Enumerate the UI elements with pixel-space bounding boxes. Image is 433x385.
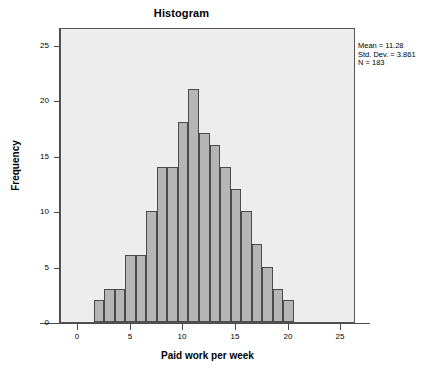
bars-layer	[61, 29, 354, 322]
histogram-bar	[273, 289, 284, 322]
plot-area	[60, 28, 355, 323]
histogram-bar	[125, 255, 136, 322]
chart-title: Histogram	[0, 7, 363, 19]
y-axis-line	[59, 28, 60, 324]
histogram-bar	[146, 211, 157, 322]
histogram-bar	[241, 211, 252, 322]
histogram-bar	[283, 300, 294, 322]
histogram-bar	[231, 189, 242, 322]
x-axis-tick-label: 15	[225, 332, 245, 341]
y-axis-tick-label: 10	[40, 208, 49, 216]
statistics-annotation: Mean = 11.28 Std. Dev. = 3.861 N = 183	[358, 42, 416, 68]
x-axis-title: Paid work per week	[60, 350, 355, 361]
y-axis-tick	[54, 157, 60, 158]
histogram-bar	[220, 167, 231, 322]
histogram-bar	[115, 289, 126, 322]
x-axis-tick	[77, 324, 78, 330]
y-axis-tick	[54, 212, 60, 213]
histogram-figure: Histogram 05101520250510152025 Frequency…	[0, 0, 433, 385]
histogram-bar	[136, 255, 147, 322]
x-axis-tick-label: 5	[120, 332, 140, 341]
y-axis-tick-label: 0	[45, 319, 49, 327]
x-axis-tick	[130, 324, 131, 330]
histogram-bar	[188, 89, 199, 322]
x-axis-line	[40, 323, 370, 324]
histogram-bar	[94, 300, 105, 322]
histogram-bar	[210, 145, 221, 322]
x-axis-tick-label: 20	[278, 332, 298, 341]
histogram-bar	[199, 133, 210, 322]
stat-n: N = 183	[358, 59, 416, 68]
y-axis-tick	[54, 101, 60, 102]
x-axis-tick-label: 0	[67, 332, 87, 341]
histogram-bar	[252, 244, 263, 322]
x-axis-tick	[182, 324, 183, 330]
histogram-bar	[178, 122, 189, 322]
y-axis-tick-label: 15	[40, 153, 49, 161]
histogram-bar	[104, 289, 115, 322]
x-axis-tick-label: 10	[172, 332, 192, 341]
y-axis-title: Frequency	[10, 106, 21, 226]
histogram-bar	[262, 267, 273, 322]
y-axis-tick-label: 5	[45, 264, 49, 272]
x-axis-tick-label: 25	[330, 332, 350, 341]
y-axis-tick-label: 20	[40, 97, 49, 105]
x-axis-tick	[288, 324, 289, 330]
x-axis-tick	[340, 324, 341, 330]
y-axis-tick-label: 25	[40, 42, 49, 50]
y-axis-tick	[54, 323, 60, 324]
y-axis-tick	[54, 268, 60, 269]
y-axis-tick	[54, 46, 60, 47]
histogram-bar	[167, 167, 178, 322]
x-axis-tick	[235, 324, 236, 330]
histogram-bar	[157, 167, 168, 322]
